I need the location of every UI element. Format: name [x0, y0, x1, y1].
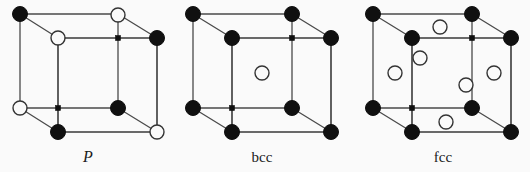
bcc-back-bottom-right	[285, 101, 300, 116]
fcc-face-centre-right	[487, 66, 501, 80]
fcc-front-bottom-right	[504, 125, 519, 140]
p-hidden-vertex-marker-bottom	[55, 105, 60, 110]
fcc-front-bottom-left	[405, 125, 420, 140]
captions-layer: Pbccfcc	[82, 148, 452, 165]
bcc-front-bottom-left	[225, 125, 240, 140]
fcc-face-centre-front	[459, 78, 473, 92]
bcc-body-centre	[255, 66, 269, 80]
fcc-front-top-left	[405, 31, 420, 46]
p-front-top-left	[51, 31, 65, 45]
fcc-face-centre-left	[388, 66, 402, 80]
p-front-bottom-right	[150, 125, 164, 139]
fcc-back-bottom-right	[465, 101, 480, 116]
bcc-hidden-vertex-marker-bottom	[229, 105, 234, 110]
fcc-face-centre-back	[413, 51, 427, 65]
fcc-back-top-right	[465, 7, 480, 22]
caption-bcc: bcc	[252, 149, 273, 165]
caption-fcc: fcc	[434, 149, 453, 165]
caption-p: P	[82, 148, 93, 165]
p-back-bottom-left	[13, 101, 27, 115]
p-front-bottom-left	[51, 125, 66, 140]
unit-cell-p	[13, 7, 165, 140]
lattice-figure: Pbccfcc	[0, 0, 530, 172]
unit-cell-fcc	[366, 7, 519, 140]
bcc-front-top-left	[225, 31, 240, 46]
unit-cells-layer	[13, 7, 519, 140]
fcc-hidden-vertex-marker-bottom	[409, 105, 414, 110]
p-back-bottom-right	[111, 101, 126, 116]
fcc-hidden-vertex-marker-top	[469, 35, 474, 40]
fcc-back-bottom-left	[366, 101, 381, 116]
p-back-top-left	[13, 7, 28, 22]
bcc-hidden-vertex-marker-top	[289, 35, 294, 40]
fcc-face-centre-top	[433, 20, 447, 34]
bcc-back-top-right	[285, 7, 300, 22]
bcc-front-top-right	[324, 31, 339, 46]
fcc-back-top-left	[366, 7, 381, 22]
bcc-front-bottom-right	[324, 125, 339, 140]
fcc-front-top-right	[504, 31, 519, 46]
fcc-face-centre-bottom	[439, 115, 453, 129]
bcc-back-bottom-left	[186, 101, 201, 116]
bcc-back-top-left	[186, 7, 201, 22]
lattice-diagram-canvas: Pbccfcc	[0, 0, 530, 172]
unit-cell-bcc	[186, 7, 339, 140]
p-front-top-right	[150, 31, 165, 46]
p-hidden-vertex-marker-top	[115, 35, 120, 40]
p-back-top-right	[111, 8, 125, 22]
